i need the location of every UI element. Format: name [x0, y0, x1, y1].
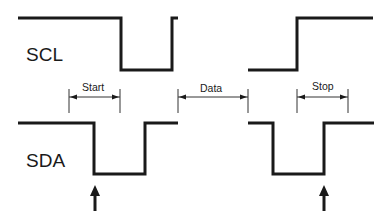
waveform-canvas — [0, 0, 392, 221]
i2c-timing-diagram: SCL SDA Start Data Stop — [0, 0, 392, 221]
sda-label: SDA — [26, 150, 65, 172]
start-event-arrow-icon — [90, 185, 100, 211]
start-label: Start — [82, 81, 104, 93]
scl-label: SCL — [26, 44, 63, 66]
scl-waveform-right — [248, 18, 373, 70]
data-label: Data — [200, 82, 222, 94]
stop-label: Stop — [312, 80, 334, 92]
sda-waveform-right — [248, 123, 374, 174]
stop-event-arrow-icon — [319, 185, 329, 211]
